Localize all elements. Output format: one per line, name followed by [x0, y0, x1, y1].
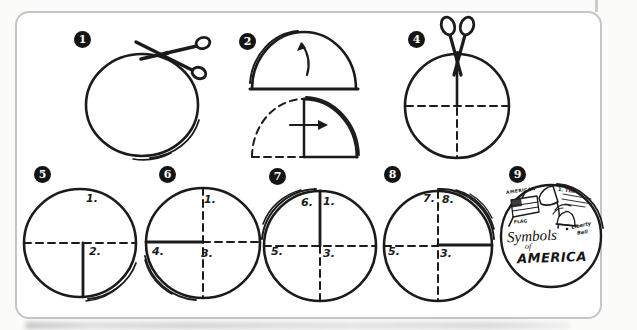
- step-8-badge: 8: [384, 166, 401, 183]
- step-7-badge: 7: [269, 168, 286, 185]
- page-number-label: 1.: [204, 194, 216, 205]
- page-number-label: 8.: [442, 194, 454, 205]
- step-2-illustration: [240, 25, 370, 163]
- step-2-badge: 2: [239, 33, 256, 50]
- step-2: [240, 25, 370, 163]
- lifted-corner-flap: [539, 186, 558, 205]
- page-number-label: 3.: [440, 248, 452, 259]
- folded-half: [252, 32, 356, 89]
- fold-ghost-arc: [252, 99, 304, 157]
- page-number-label: 3.: [201, 248, 213, 259]
- flag-label-bottom: FLAG: [514, 219, 527, 225]
- scan-artifact-tick: [595, 0, 598, 12]
- page-number-label: 4.: [152, 246, 164, 257]
- step-8-illustration: [380, 168, 500, 310]
- page-number-label: 6.: [301, 197, 313, 208]
- step-6-badge: 6: [159, 166, 176, 183]
- page-number-label: 2.: [89, 246, 101, 257]
- page-number-label: 3.: [323, 248, 335, 259]
- step-5-badge: 5: [34, 166, 51, 183]
- page-number-label: 5.: [271, 246, 283, 257]
- paper-circle: [86, 54, 198, 156]
- step-8: 7. 8. 5. 3.: [380, 168, 500, 310]
- paper-layer-arc: [150, 120, 199, 158]
- fold-arrow-icon: [297, 42, 309, 75]
- cover-title-symbols: Symbols: [507, 227, 558, 247]
- step-7-illustration: [260, 168, 382, 310]
- quarter-arc: [304, 99, 357, 157]
- step-5-illustration: [22, 168, 142, 308]
- cover-title-of: of: [525, 242, 531, 251]
- page-number-label: 7.: [423, 193, 435, 204]
- step-6: 1. 4. 3.: [142, 168, 266, 308]
- step-4-badge: 4: [408, 31, 425, 48]
- scissors-icon: [439, 15, 476, 75]
- scissors-icon: [136, 36, 211, 81]
- scan-artifact-text-blur: [25, 322, 570, 329]
- page-number-label: 1.: [86, 193, 98, 204]
- cover-title-america: AMERICA: [517, 249, 587, 266]
- step-9: AMERICAN FLAG 1. The Liberty Bell Symbol…: [495, 168, 620, 303]
- step-7: 6. 1. 5. 3.: [260, 168, 382, 310]
- page-number-label: 5.: [388, 246, 400, 257]
- paper-layer-arc: [250, 31, 298, 83]
- right-arrow-icon: [290, 120, 328, 130]
- step-1-badge: 1: [74, 31, 91, 48]
- step-5: 1. 2.: [22, 168, 142, 308]
- step-6-illustration: [142, 168, 266, 308]
- step-9-badge: 9: [509, 166, 526, 183]
- page-number-label: 1.: [323, 196, 335, 207]
